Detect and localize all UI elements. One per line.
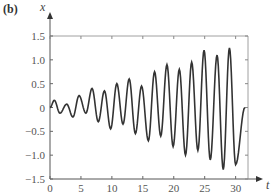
y-axis-label: x <box>39 0 46 14</box>
svg-text:0: 0 <box>40 102 46 114</box>
svg-text:30: 30 <box>230 182 242 194</box>
svg-text:0: 0 <box>47 182 53 194</box>
svg-text:1.5: 1.5 <box>31 30 45 42</box>
svg-text:20: 20 <box>168 182 180 194</box>
svg-text:10: 10 <box>106 182 118 194</box>
svg-text:−1.5: −1.5 <box>25 173 45 185</box>
x-axis-label: t <box>266 178 270 192</box>
svg-text:0.5: 0.5 <box>31 78 45 90</box>
svg-text:25: 25 <box>199 182 211 194</box>
data-line <box>50 48 245 170</box>
svg-text:5: 5 <box>78 182 84 194</box>
svg-text:1.0: 1.0 <box>31 54 45 66</box>
svg-text:−1.0: −1.0 <box>25 149 45 161</box>
y-axis-ticks: 1.51.00.50−0.5−1.0−1.5 <box>25 30 248 185</box>
panel-label: (b) <box>3 2 18 16</box>
chart: (b) 1.51.00.50−0.5−1.0−1.5 051015202530 … <box>0 0 273 196</box>
svg-text:−0.5: −0.5 <box>25 125 45 137</box>
svg-text:15: 15 <box>137 182 149 194</box>
